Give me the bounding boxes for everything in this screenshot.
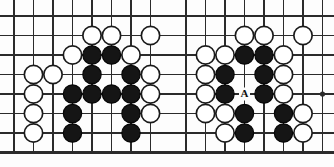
white-stone[interactable] (255, 26, 273, 44)
star-point (320, 91, 325, 96)
white-stone[interactable] (196, 85, 214, 103)
white-stone[interactable] (122, 46, 140, 64)
white-stone[interactable] (141, 26, 159, 44)
black-stone[interactable] (83, 46, 101, 64)
white-stone[interactable] (216, 104, 234, 122)
white-stone[interactable] (274, 46, 292, 64)
left-go-board (0, 0, 167, 167)
white-stone[interactable] (294, 104, 312, 122)
black-stone[interactable] (216, 85, 234, 103)
left-board-canvas (0, 0, 167, 167)
black-stone[interactable] (63, 124, 81, 142)
white-stone[interactable] (235, 26, 253, 44)
black-stone[interactable] (63, 85, 81, 103)
intersection-label-a: A (241, 87, 249, 99)
black-stone[interactable] (122, 104, 140, 122)
white-stone[interactable] (294, 124, 312, 142)
white-stone[interactable] (24, 104, 42, 122)
white-stone[interactable] (196, 46, 214, 64)
black-stone[interactable] (122, 85, 140, 103)
black-stone[interactable] (83, 65, 101, 83)
black-stone[interactable] (274, 124, 292, 142)
black-stone[interactable] (102, 46, 120, 64)
black-stone[interactable] (235, 104, 253, 122)
white-stone[interactable] (141, 65, 159, 83)
white-stone[interactable] (294, 26, 312, 44)
white-stone[interactable] (141, 104, 159, 122)
black-stone[interactable] (83, 85, 101, 103)
white-stone[interactable] (83, 26, 101, 44)
white-stone[interactable] (196, 104, 214, 122)
white-stone[interactable] (24, 124, 42, 142)
white-stone[interactable] (196, 65, 214, 83)
white-stone[interactable] (216, 46, 234, 64)
right-go-board: A (167, 0, 334, 167)
go-diagram-figure: A (0, 0, 334, 167)
black-stone[interactable] (63, 104, 81, 122)
white-stone[interactable] (24, 85, 42, 103)
black-stone[interactable] (274, 104, 292, 122)
white-stone[interactable] (216, 124, 234, 142)
black-stone[interactable] (102, 85, 120, 103)
white-stone[interactable] (141, 85, 159, 103)
black-stone[interactable] (122, 124, 140, 142)
black-stone[interactable] (216, 65, 234, 83)
black-stone[interactable] (255, 85, 273, 103)
white-stone[interactable] (44, 65, 62, 83)
right-board-canvas: A (167, 0, 334, 167)
black-stone[interactable] (122, 65, 140, 83)
black-stone[interactable] (255, 46, 273, 64)
black-stone[interactable] (235, 46, 253, 64)
white-stone[interactable] (274, 85, 292, 103)
black-stone[interactable] (235, 124, 253, 142)
white-stone[interactable] (24, 65, 42, 83)
white-stone[interactable] (274, 65, 292, 83)
white-stone[interactable] (102, 26, 120, 44)
white-stone[interactable] (63, 46, 81, 64)
black-stone[interactable] (255, 65, 273, 83)
